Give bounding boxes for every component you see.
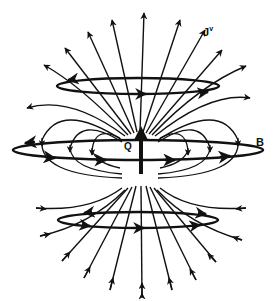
bottom-radial-field-lines — [36, 186, 246, 296]
field-diagram — [0, 0, 276, 301]
label-current-density: Jv — [203, 25, 213, 38]
label-magnetic-field: B — [256, 136, 264, 148]
top-radial-field-lines — [27, 13, 250, 136]
charge-arrow-q — [134, 126, 148, 174]
label-charge: Q — [124, 141, 132, 152]
upper-ring — [57, 78, 219, 94]
central-ring-b — [13, 140, 263, 160]
label-j-superscript: v — [209, 25, 213, 32]
